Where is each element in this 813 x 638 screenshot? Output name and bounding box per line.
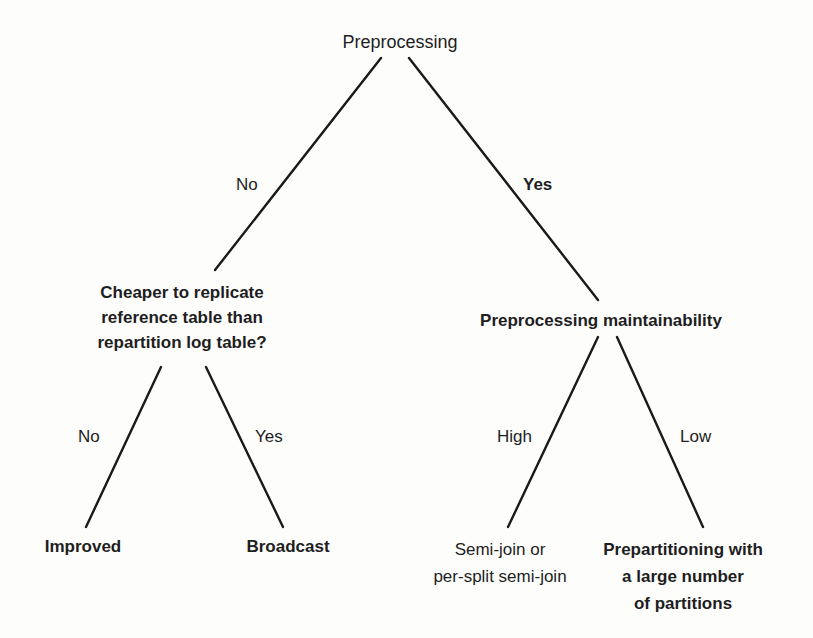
root-branch-no-label: No	[236, 174, 258, 195]
leaf-broadcast: Broadcast	[246, 536, 329, 557]
leaf-improved: Improved	[45, 536, 122, 557]
edge-root-to-left	[215, 58, 381, 270]
right-decision-node-label: Preprocessing maintainability	[480, 310, 722, 331]
right-node-branch-high-label: High	[497, 426, 532, 447]
left-node-branch-no-label: No	[78, 426, 100, 447]
left-node-branch-yes-label: Yes	[255, 426, 283, 447]
right-node-branch-low-label: Low	[680, 426, 711, 447]
edge-leftnode-to-broadcast	[206, 367, 283, 527]
edge-root-to-right	[409, 58, 598, 300]
edge-leftnode-to-improved	[86, 367, 161, 527]
root-branch-yes-label: Yes	[523, 174, 552, 195]
left-decision-node-label: Cheaper to replicate reference table tha…	[97, 280, 266, 355]
root-node-label: Preprocessing	[342, 32, 457, 53]
leaf-prepartitioning: Prepartitioning with a large number of p…	[603, 536, 763, 617]
leaf-semi-join: Semi-join or per-split semi-join	[433, 536, 566, 590]
